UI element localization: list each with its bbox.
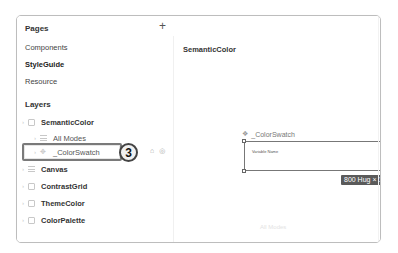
resize-handle-top-left[interactable] <box>242 139 246 143</box>
layer-label: Canvas <box>41 165 68 174</box>
lock-icon[interactable]: ⌂ <box>150 147 154 155</box>
page-item-components[interactable]: Components <box>25 43 68 52</box>
caret-icon[interactable]: › <box>19 166 27 172</box>
layers-header: Layers <box>25 100 51 109</box>
caret-icon[interactable]: › <box>19 200 27 206</box>
component-icon: ❖ <box>242 130 248 138</box>
colorswatch-frame[interactable]: Variable Name Hex Co Hex Co <box>244 141 381 171</box>
layer-label: ContrastGrid <box>41 182 87 191</box>
list-icon <box>39 134 47 142</box>
left-panel: Pages + Components StyleGuide Resource L… <box>17 16 173 242</box>
figma-window: Pages + Components StyleGuide Resource L… <box>16 15 381 243</box>
layer-label: ColorPalette <box>41 216 85 225</box>
canvas[interactable]: SemanticColor ❖ _ColorSwatch Variable Na… <box>174 16 380 242</box>
resize-handle-bottom-left[interactable] <box>242 169 246 173</box>
size-badge: 800 Hug × 106 Hug <box>341 175 381 185</box>
frame-title[interactable]: SemanticColor <box>183 45 236 54</box>
eye-icon[interactable]: ◎ <box>159 147 165 155</box>
add-page-button[interactable]: + <box>159 19 166 33</box>
faded-all-modes-label: All Modes <box>260 224 286 230</box>
frame-icon <box>27 118 35 126</box>
variable-name-text: Variable Name <box>252 149 278 154</box>
layer-row-actions: ⌂ ◎ <box>150 147 165 155</box>
caret-icon[interactable]: › <box>19 217 27 223</box>
layer-contrastgrid[interactable]: › ContrastGrid <box>17 179 173 193</box>
layer-label: SemanticColor <box>41 118 94 127</box>
component-name: _ColorSwatch <box>251 131 295 138</box>
page-item-styleguide[interactable]: StyleGuide <box>25 60 64 69</box>
layer-themecolor[interactable]: › ThemeColor <box>17 196 173 210</box>
layer-label: ThemeColor <box>41 199 85 208</box>
page-item-resource[interactable]: Resource <box>25 77 57 86</box>
caret-icon[interactable]: › <box>19 183 27 189</box>
layer-label: All Modes <box>53 134 86 143</box>
layer-colorpalette[interactable]: › ColorPalette <box>17 213 173 227</box>
caret-icon[interactable]: › <box>31 135 39 141</box>
layer-canvas[interactable]: › Canvas <box>17 162 173 176</box>
frame-icon <box>27 199 35 207</box>
layer-semanticcolor[interactable]: › SemanticColor <box>17 115 173 129</box>
highlight-box <box>22 143 122 161</box>
frame-icon <box>27 216 35 224</box>
canvas-edge <box>378 16 379 242</box>
step-badge: 3 <box>119 143 138 162</box>
list-icon <box>27 165 35 173</box>
frame-icon <box>27 182 35 190</box>
pages-header: Pages <box>25 24 49 33</box>
component-label[interactable]: ❖ _ColorSwatch <box>242 130 295 138</box>
caret-icon[interactable]: › <box>19 119 27 125</box>
